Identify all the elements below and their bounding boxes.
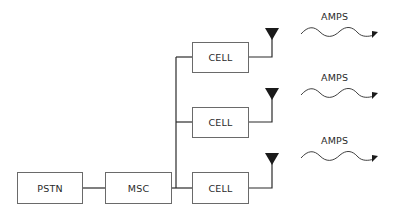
cell-node-2: CELL <box>192 107 249 138</box>
pstn-node: PSTN <box>17 172 83 204</box>
cell-node-3: CELL <box>192 172 249 204</box>
antenna-icon <box>265 153 279 165</box>
antenna-icon <box>265 28 279 40</box>
msc-node: MSC <box>105 172 172 204</box>
wave-arrow-icon <box>301 151 378 162</box>
wave-arrow-icon <box>301 27 378 38</box>
link-cell3-antenna <box>248 161 272 188</box>
link-cell2-antenna <box>248 97 272 122</box>
amps-label-1: AMPS <box>321 11 348 22</box>
amps-label-2: AMPS <box>321 72 348 83</box>
cellular-network-diagram: PSTN MSC CELL CELL CELL AMPS AMPS AMPS <box>0 0 397 215</box>
amps-label-3: AMPS <box>321 135 348 146</box>
wave-arrow-icon <box>301 88 378 99</box>
antenna-icon <box>265 88 279 100</box>
link-cell1-antenna <box>248 36 272 57</box>
cell-node-1: CELL <box>192 42 249 73</box>
